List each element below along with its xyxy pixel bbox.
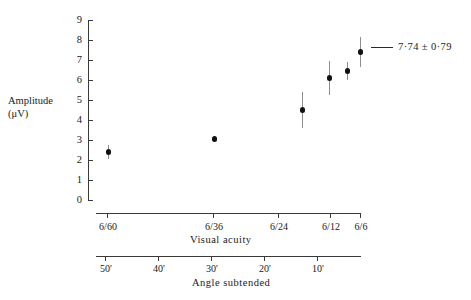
data-point-1 [106,149,111,154]
acuity-tick-label-6-6: 6/6 [355,221,368,232]
y-tick-3 [89,140,93,141]
angle-axis-line [96,256,361,257]
acuity-tick-6-36 [213,214,214,218]
angle-tick-label-50: 50' [100,263,112,274]
angle-tick-10 [317,257,318,261]
y-tick-4 [89,120,93,121]
acuity-tick-6-60 [107,214,108,218]
y-tick-6 [89,80,93,81]
angle-tick-label-10: 10' [312,263,324,274]
acuity-tick-label-6-24: 6/24 [270,221,288,232]
chart-figure: Amplitude (μV) 9 8 7 6 5 4 3 2 1 0 7·74 … [0,0,471,300]
angle-tick-40 [158,257,159,261]
y-tick-label-8: 8 [64,35,82,45]
angle-axis-title: Angle subtended [192,277,270,288]
y-tick-label-4: 4 [64,115,82,125]
angle-tick-50 [105,257,106,261]
y-tick-5 [89,100,93,101]
y-tick-label-7: 7 [64,55,82,65]
y-tick-0 [89,200,93,201]
data-point-4 [327,75,332,80]
data-point-5 [345,68,350,73]
y-tick-label-1: 1 [64,175,82,185]
annotation-label: 7·74 ± 0·79 [398,41,452,52]
y-tick-1 [89,180,93,181]
y-tick-8 [89,40,93,41]
y-axis-line [88,20,89,201]
angle-tick-label-40: 40' [153,263,165,274]
y-tick-label-5: 5 [64,95,82,105]
acuity-tick-6-24 [278,214,279,218]
data-point-2 [212,136,217,141]
acuity-axis-title: Visual acuity [190,234,252,245]
y-tick-label-3: 3 [64,135,82,145]
acuity-tick-6-6 [360,214,361,218]
y-tick-label-9: 9 [64,15,82,25]
y-tick-label-2: 2 [64,155,82,165]
y-tick-label-6: 6 [64,75,82,85]
y-tick-label-0: 0 [64,195,82,205]
angle-tick-label-30: 30' [206,263,218,274]
data-point-3 [300,107,305,112]
y-tick-2 [89,160,93,161]
annotation-dash-icon [371,47,393,48]
acuity-tick-label-6-36: 6/36 [205,221,223,232]
acuity-tick-label-6-12: 6/12 [322,221,340,232]
acuity-tick-label-6-60: 6/60 [99,221,117,232]
angle-tick-label-20: 20' [259,263,271,274]
y-tick-7 [89,60,93,61]
data-point-6 [358,49,363,54]
angle-tick-30 [211,257,212,261]
acuity-axis-line [96,213,361,214]
y-tick-9 [89,20,93,21]
angle-tick-20 [264,257,265,261]
acuity-tick-6-12 [330,214,331,218]
